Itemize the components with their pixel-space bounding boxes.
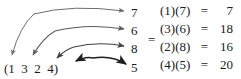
equals-sign: = bbox=[148, 33, 155, 46]
arrow-4-to-5 bbox=[93, 57, 126, 64]
target-value-8: 8 bbox=[131, 42, 143, 55]
table-row: (3)(6) = 18 bbox=[160, 21, 238, 39]
cycle-notation: (1 3 2 4) bbox=[4, 62, 58, 75]
target-value-7: 7 bbox=[131, 6, 143, 19]
permutation-product-figure: (1 3 2 4) 7 6 8 5 = (1)(7) = 7 (3)(6) = … bbox=[0, 0, 241, 79]
arrow-tail-to-1 bbox=[12, 14, 34, 55]
arrow-tail-to-4 bbox=[76, 57, 93, 61]
product-table: (1)(7) = 7 (3)(6) = 18 (2)(8) = 16 (4)(5… bbox=[160, 3, 238, 75]
product-equals-4: = bbox=[198, 57, 211, 73]
arrow-tail-to-3 bbox=[33, 31, 55, 55]
table-row: (2)(8) = 16 bbox=[160, 39, 238, 57]
product-factors-1: (1)(7) bbox=[160, 3, 198, 19]
target-value-6: 6 bbox=[131, 24, 143, 37]
product-equals-1: = bbox=[198, 3, 211, 19]
arrow-2-to-8 bbox=[74, 44, 124, 47]
arrow-1-to-7 bbox=[34, 8, 124, 14]
product-factors-4: (4)(5) bbox=[160, 57, 198, 73]
product-equals-3: = bbox=[198, 39, 211, 55]
arrow-tail-to-2 bbox=[57, 47, 74, 58]
product-factors-2: (3)(6) bbox=[160, 21, 198, 37]
arrow-3-to-6 bbox=[55, 26, 124, 31]
product-factors-3: (2)(8) bbox=[160, 39, 198, 55]
target-value-5: 5 bbox=[131, 61, 143, 74]
table-row: (4)(5) = 20 bbox=[160, 57, 238, 75]
product-result-2: 18 bbox=[211, 21, 233, 37]
product-result-3: 16 bbox=[211, 39, 233, 55]
product-equals-2: = bbox=[198, 21, 211, 37]
product-result-1: 7 bbox=[211, 3, 233, 19]
product-result-4: 20 bbox=[211, 57, 233, 73]
table-row: (1)(7) = 7 bbox=[160, 3, 238, 21]
